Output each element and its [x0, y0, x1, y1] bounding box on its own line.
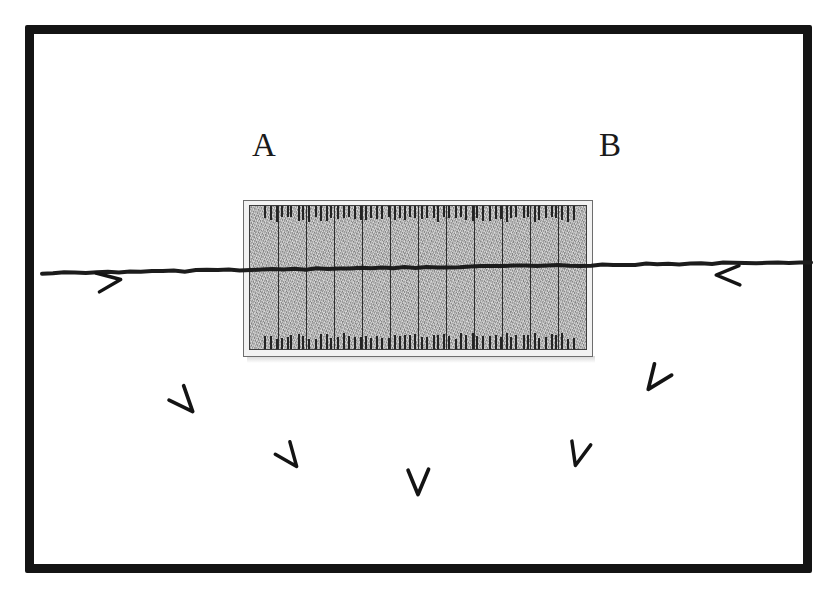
- drawing-canvas: A B: [0, 0, 837, 594]
- mark-bottom-center: [408, 469, 428, 494]
- mark-lower-left: [168, 386, 200, 418]
- chevron-marks-layer: [0, 0, 837, 594]
- mark-lower-right-2: [566, 440, 590, 468]
- mark-right-under-line: [716, 266, 740, 285]
- mark-lower-left-2: [275, 442, 305, 472]
- mark-lower-right: [640, 363, 671, 395]
- mark-left-under-line: [96, 270, 122, 292]
- figure-root: A B: [0, 0, 837, 594]
